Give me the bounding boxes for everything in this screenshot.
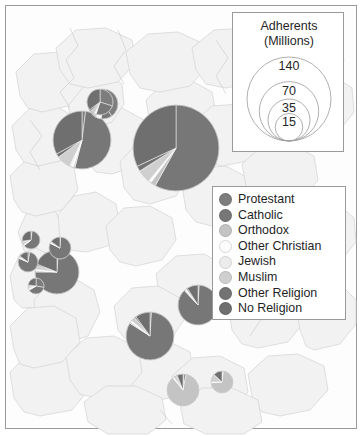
legend-label-muslim: Muslim bbox=[238, 270, 277, 286]
pie-germany[interactable] bbox=[133, 105, 219, 191]
legend-label-other-religion: Other Religion bbox=[238, 286, 317, 302]
size-circle-label-70: 70 bbox=[282, 84, 296, 98]
legend-item-protestant[interactable]: Protestant bbox=[219, 192, 345, 208]
swatch-jewish bbox=[219, 256, 232, 269]
swatch-no-religion bbox=[219, 302, 232, 315]
pie-ireland[interactable] bbox=[18, 252, 38, 272]
legend-item-other-religion[interactable]: Other Religion bbox=[219, 286, 345, 302]
size-circle-label-35: 35 bbox=[282, 101, 296, 115]
legend-item-catholic[interactable]: Catholic bbox=[219, 208, 345, 224]
legend-label-protestant: Protestant bbox=[238, 192, 294, 208]
pie-greece[interactable] bbox=[167, 374, 199, 406]
legend-item-muslim[interactable]: Muslim bbox=[219, 270, 345, 286]
map-figure: Adherents (Millions) 140703515 Protestan… bbox=[0, 0, 364, 436]
swatch-orthodox bbox=[219, 224, 232, 237]
pie-belgium[interactable] bbox=[22, 231, 40, 249]
category-legend: Protestant Catholic Orthodox Other Chris… bbox=[212, 186, 346, 320]
size-circle-label-15: 15 bbox=[282, 115, 296, 129]
pie-portugal[interactable] bbox=[49, 237, 71, 259]
size-circle-label-140: 140 bbox=[279, 59, 300, 73]
swatch-muslim bbox=[219, 271, 232, 284]
pie-switzerland[interactable] bbox=[28, 278, 44, 294]
legend-label-jewish: Jewish bbox=[238, 254, 276, 270]
pie-netherlands[interactable] bbox=[87, 89, 113, 115]
legend-label-other-christian: Other Christian bbox=[238, 239, 321, 255]
legend-item-jewish[interactable]: Jewish bbox=[219, 254, 345, 270]
size-legend: Adherents (Millions) 140703515 bbox=[232, 12, 344, 152]
legend-label-catholic: Catholic bbox=[238, 208, 283, 224]
swatch-protestant bbox=[219, 193, 232, 206]
size-legend-circles: 140703515 bbox=[233, 13, 345, 153]
legend-item-orthodox[interactable]: Orthodox bbox=[219, 223, 345, 239]
pie-italy[interactable] bbox=[126, 312, 174, 360]
swatch-other-religion bbox=[219, 287, 232, 300]
legend-item-no-religion[interactable]: No Religion bbox=[219, 301, 345, 317]
legend-label-no-religion: No Religion bbox=[238, 301, 302, 317]
pie-france[interactable] bbox=[53, 111, 111, 169]
legend-item-other-christian[interactable]: Other Christian bbox=[219, 239, 345, 255]
pie-bulgaria[interactable] bbox=[211, 371, 233, 393]
swatch-other-christian bbox=[219, 240, 232, 253]
legend-label-orthodox: Orthodox bbox=[238, 223, 289, 239]
swatch-catholic bbox=[219, 209, 232, 222]
